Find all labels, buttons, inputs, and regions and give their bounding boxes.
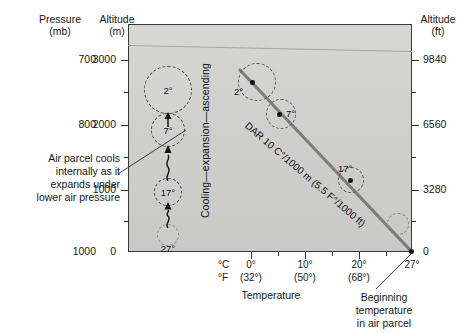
left-tick-2000 [121,125,129,126]
right-tick-6560 [411,125,419,126]
parcel-label-2deg: 2° [163,85,172,96]
line-parcel-label-7deg: 7° [286,108,295,119]
parcel-2deg: 2° [144,66,192,114]
bottom-tick-20c [359,252,360,259]
temp-tick-32f: (32°) [231,272,271,284]
right-tick-minor-1 [411,92,416,93]
bottom-callout-line2: temperature [334,304,434,317]
unit-fahrenheit-label: °F [218,272,228,284]
altitude-m-tick-0: 0 [84,246,116,258]
temp-tick-50f: (50°) [285,272,325,284]
altitude-m-axis-header-line1: Altitude [86,14,148,26]
bottom-tick-0c [251,252,252,259]
ascent-arrow-27-to-17-icon [158,202,178,228]
altitude-m-tick-2000: 2000 [84,119,116,131]
left-tick-minor-3 [124,221,129,222]
altitude-ft-axis-header-line1: Altitude [406,14,470,26]
left-callout-line2: internally as it [8,165,120,178]
parcel-label-17deg: 17° [161,187,175,198]
temp-tick-10c: 10° [285,259,325,271]
line-parcel-label-2deg: 2° [234,86,243,97]
altitude-m-axis-header-line2: (m) [86,26,148,38]
altitude-ft-tick-9840: 9840 [423,54,446,66]
ascent-arrow-7-to-2-icon [158,112,178,128]
bottom-tick-10c [305,252,306,259]
left-callout-line4: lower air pressure [8,191,120,204]
bottom-tick-minor-1 [278,252,279,256]
altitude-ft-axis-header-line2: (ft) [406,26,470,38]
altitude-m-tick-3000: 3000 [84,54,116,66]
right-tick-3280 [411,190,419,191]
dar-diagram: Pressure (mb) Altitude (m) Altitude (ft)… [0,0,475,333]
left-callout-line1: Air parcel cools [8,152,120,165]
bottom-callout-line1: Beginning [334,291,434,304]
left-tick-3000 [121,60,129,61]
altitude-ft-tick-3280: 3280 [423,184,446,196]
line-parcel-dot-2deg [250,80,255,85]
bottom-callout-leader-line [366,253,414,291]
line-parcel-label-17deg: 17° [338,163,352,174]
line-parcel-dot-7deg [277,112,282,117]
cooling-expansion-ascending-label: Cooling—expansion—ascending [199,63,211,218]
altitude-ft-tick-6560: 6560 [423,119,446,131]
left-callout-line3: expands under [8,178,120,191]
line-parcel-circle-2deg [238,63,276,101]
right-tick-minor-2 [411,157,416,158]
altitude-ft-tick-0: 0 [423,246,429,258]
temperature-axis-title: Temperature [228,290,314,302]
right-tick-minor-3 [411,221,416,222]
left-tick-minor-1 [124,92,129,93]
left-callout-leader-line [118,128,188,176]
left-tick-1000 [121,190,129,191]
parcel-label-27deg: 27° [148,243,188,255]
bottom-callout-line3: in air parcel [334,317,434,330]
unit-celsius-label: °C [218,259,229,271]
temp-tick-0c: 0° [231,259,271,271]
bottom-tick-minor-2 [332,252,333,256]
right-tick-9840 [411,60,419,61]
line-parcel-circle-27deg [387,213,409,235]
line-parcel-dot-17deg [348,178,353,183]
